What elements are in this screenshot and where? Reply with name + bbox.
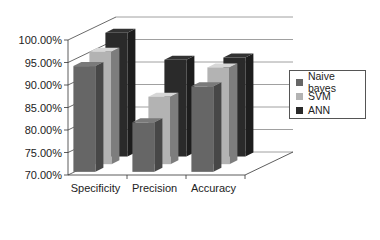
bar-naive-bayes-precision [132, 118, 162, 172]
svg-text:75.00%: 75.00% [25, 147, 63, 159]
category-label: Specificity [71, 182, 121, 194]
y-axis: 70.00%75.00%80.00%85.00%90.00%95.00%100.… [19, 34, 68, 181]
svg-text:90.00%: 90.00% [25, 79, 63, 91]
legend-label: SVM [308, 90, 331, 102]
svg-text:95.00%: 95.00% [25, 57, 63, 69]
legend-item-naive-bayes: Naive bayes [296, 75, 365, 89]
bars [73, 29, 253, 172]
category-label: Accuracy [191, 182, 237, 194]
legend: Naive bayes SVM ANN [289, 70, 366, 119]
bar-naive-bayes-specificity [73, 62, 103, 172]
legend-swatch-svm [296, 93, 303, 100]
legend-swatch-ann [296, 107, 303, 114]
bar-naive-bayes-accuracy [191, 82, 221, 172]
svg-text:85.00%: 85.00% [25, 102, 63, 114]
svg-text:70.00%: 70.00% [25, 169, 63, 181]
svg-text:100.00%: 100.00% [19, 34, 63, 46]
legend-label: ANN [308, 104, 330, 116]
legend-item-ann: ANN [296, 103, 365, 117]
svg-text:80.00%: 80.00% [25, 124, 63, 136]
category-label: Precision [132, 182, 177, 194]
legend-swatch-naive-bayes [296, 79, 303, 86]
